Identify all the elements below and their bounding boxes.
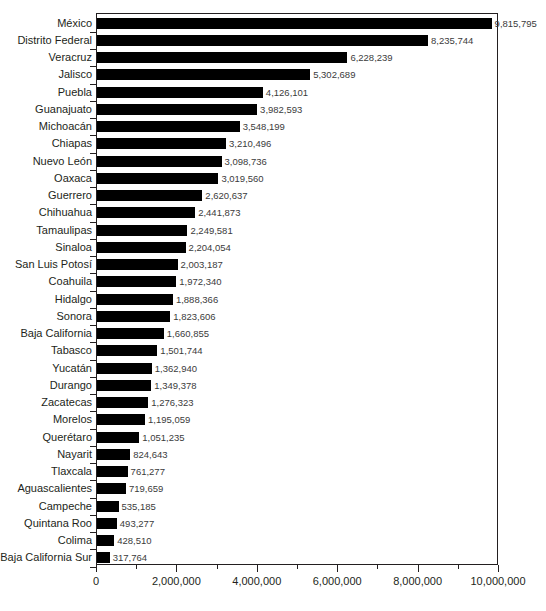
bar-row: Baja California1,660,855 bbox=[0, 325, 546, 342]
x-axis-minor-tick bbox=[136, 565, 137, 569]
category-label: Chiapas bbox=[52, 135, 92, 152]
bar-row: Tlaxcala761,277 bbox=[0, 463, 546, 480]
bar-value-label: 3,548,199 bbox=[243, 118, 285, 135]
bar-row: Quintana Roo493,277 bbox=[0, 515, 546, 532]
bar bbox=[97, 18, 492, 29]
bar-value-label: 1,972,340 bbox=[179, 273, 221, 290]
bar-value-label: 1,823,606 bbox=[173, 308, 215, 325]
category-label: Colima bbox=[58, 532, 92, 549]
bar-value-label: 535,185 bbox=[122, 498, 156, 515]
bar-value-label: 5,302,689 bbox=[313, 66, 355, 83]
bar bbox=[97, 138, 226, 149]
bar-row: Nayarit824,643 bbox=[0, 446, 546, 463]
category-label: Tamaulipas bbox=[36, 222, 92, 239]
x-axis-tick-label: 8,000,000 bbox=[393, 575, 442, 587]
category-label: Baja California Sur bbox=[0, 549, 92, 566]
bar-value-label: 3,098,736 bbox=[225, 153, 267, 170]
x-axis-major-tick bbox=[337, 565, 338, 572]
category-label: Aguascalientes bbox=[17, 480, 92, 497]
bar-row: Hidalgo1,888,366 bbox=[0, 291, 546, 308]
x-axis-major-tick bbox=[498, 565, 499, 572]
bar-row: Durango1,349,378 bbox=[0, 377, 546, 394]
bar-row: México9,815,795 bbox=[0, 15, 546, 32]
bar-value-label: 3,019,560 bbox=[221, 170, 263, 187]
bar bbox=[97, 87, 263, 98]
bar-value-label: 719,659 bbox=[129, 480, 163, 497]
bar bbox=[97, 449, 130, 460]
bar bbox=[97, 52, 347, 63]
category-label: Zacatecas bbox=[41, 394, 92, 411]
bar-value-label: 317,764 bbox=[113, 549, 147, 566]
bar bbox=[97, 225, 187, 236]
category-label: Hidalgo bbox=[55, 291, 92, 308]
category-label: Sonora bbox=[57, 308, 92, 325]
category-label: Tabasco bbox=[51, 342, 92, 359]
x-axis-tick-label: 2,000,000 bbox=[152, 575, 201, 587]
x-axis-major-tick bbox=[257, 565, 258, 572]
bar-value-label: 761,277 bbox=[131, 463, 165, 480]
bar bbox=[97, 173, 218, 184]
bar bbox=[97, 104, 257, 115]
bar-value-label: 1,349,378 bbox=[154, 377, 196, 394]
bar-row: Jalisco5,302,689 bbox=[0, 66, 546, 83]
bar-value-label: 9,815,795 bbox=[495, 15, 537, 32]
bar-row: Chiapas3,210,496 bbox=[0, 135, 546, 152]
category-label: Veracruz bbox=[49, 49, 92, 66]
bar-row: Morelos1,195,059 bbox=[0, 411, 546, 428]
category-label: Tlaxcala bbox=[51, 463, 92, 480]
bar bbox=[97, 397, 148, 408]
bar bbox=[97, 276, 176, 287]
bar bbox=[97, 380, 151, 391]
bar bbox=[97, 156, 222, 167]
bar bbox=[97, 552, 110, 563]
category-label: Baja California bbox=[20, 325, 92, 342]
category-label: México bbox=[57, 15, 92, 32]
bar-value-label: 1,276,323 bbox=[151, 394, 193, 411]
bar-row: Yucatán1,362,940 bbox=[0, 360, 546, 377]
bar-value-label: 1,501,744 bbox=[160, 342, 202, 359]
x-axis: 02,000,0004,000,0006,000,0008,000,00010,… bbox=[96, 565, 498, 611]
bar-value-label: 493,277 bbox=[120, 515, 154, 532]
bar bbox=[97, 207, 195, 218]
bar bbox=[97, 518, 117, 529]
bar bbox=[97, 242, 186, 253]
bar-value-label: 1,195,059 bbox=[148, 411, 190, 428]
bar-row: Puebla4,126,101 bbox=[0, 84, 546, 101]
bar bbox=[97, 328, 164, 339]
category-label: Querétaro bbox=[42, 429, 92, 446]
bar bbox=[97, 259, 178, 270]
bar-value-label: 1,051,235 bbox=[142, 429, 184, 446]
category-label: Campeche bbox=[39, 498, 92, 515]
bar-value-label: 2,441,873 bbox=[198, 204, 240, 221]
bar-row: Nuevo León3,098,736 bbox=[0, 153, 546, 170]
bar-value-label: 2,620,637 bbox=[205, 187, 247, 204]
bar-row: Chihuahua2,441,873 bbox=[0, 204, 546, 221]
x-axis-major-tick bbox=[418, 565, 419, 572]
bar bbox=[97, 294, 173, 305]
bar-value-label: 1,888,366 bbox=[176, 291, 218, 308]
bar-row: Guanajuato3,982,593 bbox=[0, 101, 546, 118]
x-axis-minor-tick bbox=[217, 565, 218, 569]
bar-row: Tamaulipas2,249,581 bbox=[0, 222, 546, 239]
category-label: Guanajuato bbox=[35, 101, 92, 118]
bar-row: Coahuila1,972,340 bbox=[0, 273, 546, 290]
bar-value-label: 1,362,940 bbox=[155, 360, 197, 377]
bar-row: Zacatecas1,276,323 bbox=[0, 394, 546, 411]
bar bbox=[97, 35, 428, 46]
bar-row: San Luis Potosí2,003,187 bbox=[0, 256, 546, 273]
bar-row: Baja California Sur317,764 bbox=[0, 549, 546, 566]
category-label: Sinaloa bbox=[55, 239, 92, 256]
bar-row: Sinaloa2,204,054 bbox=[0, 239, 546, 256]
category-label: Morelos bbox=[53, 411, 92, 428]
bar-row: Michoacán3,548,199 bbox=[0, 118, 546, 135]
bar-row: Sonora1,823,606 bbox=[0, 308, 546, 325]
x-axis-minor-tick bbox=[297, 565, 298, 569]
category-label: Oaxaca bbox=[54, 170, 92, 187]
bar-row: Campeche535,185 bbox=[0, 498, 546, 515]
bar-row: Veracruz6,228,239 bbox=[0, 49, 546, 66]
category-label: Michoacán bbox=[39, 118, 92, 135]
bar-row: Distrito Federal8,235,744 bbox=[0, 32, 546, 49]
category-label: Jalisco bbox=[58, 66, 92, 83]
category-label: Yucatán bbox=[52, 360, 92, 377]
bar bbox=[97, 311, 170, 322]
